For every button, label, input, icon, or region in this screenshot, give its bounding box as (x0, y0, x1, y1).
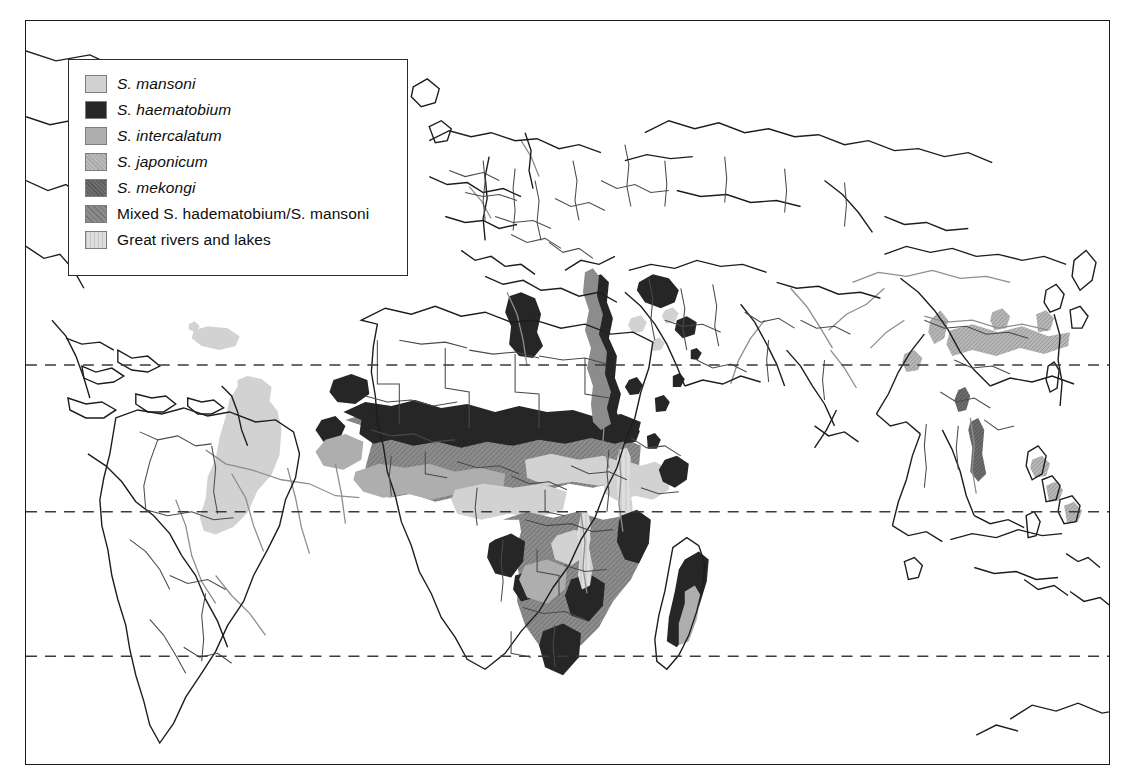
legend-item-list: S. mansoni S. haematobium S. intercalatu… (69, 60, 407, 253)
legend-label-s-mansoni: S. mansoni (117, 75, 196, 93)
region-philippines (1030, 456, 1082, 523)
legend-item-s-mansoni[interactable]: S. mansoni (85, 71, 407, 97)
swatch-s-japonicum (85, 153, 107, 171)
figure-root: S. mansoni S. haematobium S. intercalatu… (0, 0, 1130, 783)
swatch-s-mansoni (85, 75, 107, 93)
legend-item-mixed[interactable]: Mixed S. hadematobium/S. mansoni (85, 201, 407, 227)
legend-label-s-japonicum: S. japonicum (117, 153, 208, 171)
region-madagascar (667, 552, 709, 648)
region-yangtze-china (902, 308, 1070, 372)
legend-item-s-haematobium[interactable]: S. haematobium (85, 97, 407, 123)
world-map-frame: S. mansoni S. haematobium S. intercalatu… (25, 20, 1110, 765)
swatch-s-mekongi (85, 179, 107, 197)
swatch-s-haematobium (85, 101, 107, 119)
legend-label-s-mekongi: S. mekongi (117, 179, 196, 197)
legend-item-s-mekongi[interactable]: S. mekongi (85, 175, 407, 201)
swatch-s-intercalatum (85, 127, 107, 145)
legend-item-s-intercalatum[interactable]: S. intercalatum (85, 123, 407, 149)
swatch-rivers-lakes (85, 231, 107, 249)
legend-label-rivers-lakes: Great rivers and lakes (117, 231, 271, 249)
swatch-mixed (85, 205, 107, 223)
map-legend: S. mansoni S. haematobium S. intercalatu… (68, 59, 408, 276)
region-southern-africa (487, 510, 651, 676)
legend-item-s-japonicum[interactable]: S. japonicum (85, 149, 407, 175)
legend-label-s-haematobium: S. haematobium (117, 101, 231, 119)
legend-label-s-intercalatum: S. intercalatum (117, 127, 222, 145)
legend-item-rivers-lakes[interactable]: Great rivers and lakes (85, 227, 407, 253)
legend-label-mixed: Mixed S. hadematobium/S. mansoni (117, 205, 369, 223)
